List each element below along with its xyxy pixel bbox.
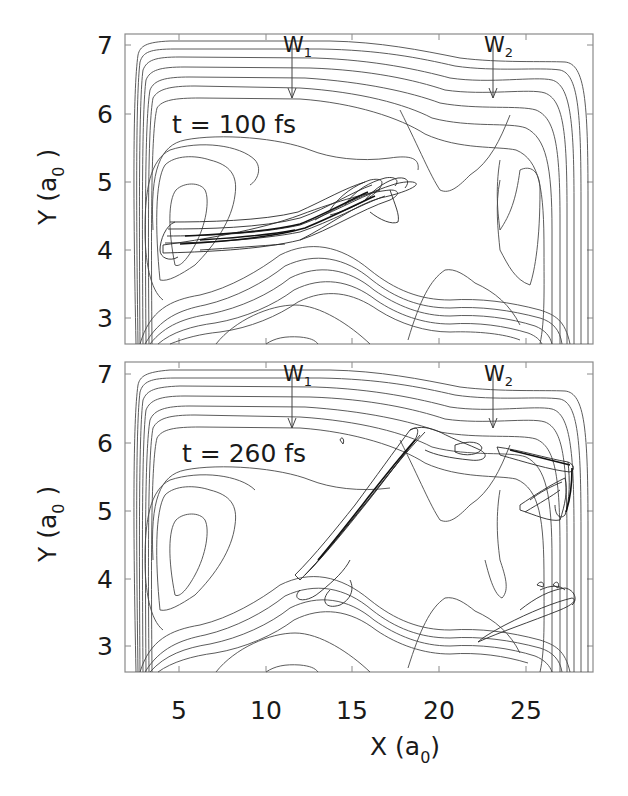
ytick-6: 6 <box>97 429 113 458</box>
wavepacket-top <box>160 177 416 259</box>
panel-top: 7 6 5 4 3 Y (a0 ) <box>33 31 593 344</box>
time-label-bottom: t = 260 fs <box>182 439 306 468</box>
ytick-6: 6 <box>97 100 113 129</box>
w1-marker-bottom: W1 <box>283 362 312 428</box>
panel-bottom: 7 6 5 4 3 Y (a0 ) <box>33 360 593 672</box>
ytick-3: 3 <box>97 304 113 333</box>
xtick-15: 15 <box>336 696 368 725</box>
wavepacket-bottom <box>295 427 575 642</box>
ytick-7: 7 <box>97 31 113 60</box>
ytick-3: 3 <box>97 632 113 661</box>
w2-marker-bottom: W2 <box>484 362 513 428</box>
xtick-5: 5 <box>171 696 187 725</box>
contours-bottom <box>134 370 588 672</box>
w2-label-top: W2 <box>484 33 513 60</box>
xtick-20: 20 <box>423 696 455 725</box>
contours-top <box>134 41 588 344</box>
ytick-4: 4 <box>97 565 113 594</box>
w1-label-bottom: W1 <box>283 362 312 389</box>
ticks-top <box>125 34 593 344</box>
w2-label-bottom: W2 <box>484 362 513 389</box>
plot-frame-top <box>125 34 593 344</box>
yticklabels-bottom: 7 6 5 4 3 <box>97 360 113 661</box>
ytick-4: 4 <box>97 236 113 265</box>
yticklabels-top: 7 6 5 4 3 <box>97 31 113 333</box>
figure: 7 6 5 4 3 Y (a0 ) <box>0 0 628 796</box>
ytick-5: 5 <box>97 168 113 197</box>
w2-marker-top: W2 <box>484 33 513 98</box>
ytick-5: 5 <box>97 497 113 526</box>
x-axis-label: X (a0) <box>370 732 440 767</box>
time-label-top: t = 100 fs <box>172 110 296 139</box>
xtick-25: 25 <box>510 696 542 725</box>
y-axis-label-top: Y (a0 ) <box>33 149 68 226</box>
w1-label-top: W1 <box>283 33 312 60</box>
xtick-10: 10 <box>250 696 282 725</box>
y-axis-label-bottom: Y (a0 ) <box>33 486 68 563</box>
ytick-7: 7 <box>97 360 113 389</box>
xticklabels: 5 10 15 20 25 <box>171 696 542 725</box>
